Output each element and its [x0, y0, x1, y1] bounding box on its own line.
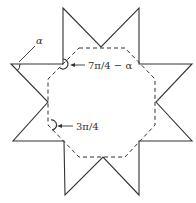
alpha-label: α — [36, 35, 43, 46]
octagon-angle-arrowhead — [57, 124, 62, 128]
octagon-angle-arc — [51, 120, 57, 130]
octagon-angle-label: 3π/4 — [76, 121, 99, 132]
alpha-pointer-line — [19, 46, 35, 62]
reflex-angle-label: 7π/4 − α — [88, 60, 132, 71]
alpha-angle-arc — [17, 64, 20, 71]
reflex-arrowhead — [70, 63, 75, 67]
star-diagram: α 7π/4 − α 3π/4 — [0, 0, 196, 203]
